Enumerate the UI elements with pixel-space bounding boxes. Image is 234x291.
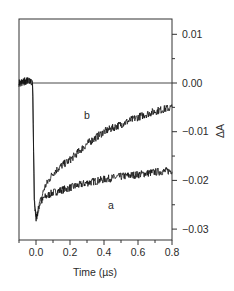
series-group [19, 77, 172, 221]
x-tick-label: 0.8 [165, 246, 180, 258]
series-b-line [19, 78, 172, 218]
x-tick-label: 0.2 [63, 246, 78, 258]
y-tick-label: −0.01 [182, 125, 209, 137]
curve-labels: ba [84, 109, 114, 211]
y-tick-label: 0.01 [182, 28, 203, 40]
series-a-line [19, 77, 172, 221]
y-tick-label: 0.00 [182, 77, 203, 89]
x-tick-label: 0.4 [97, 246, 112, 258]
chart: 0.00.20.40.60.8 0.010.00−0.01−0.02−0.03 … [0, 0, 234, 291]
curve-label-b: b [84, 109, 90, 121]
x-tick-label: 0.0 [29, 246, 44, 258]
y-tick-label: −0.03 [182, 223, 209, 235]
x-tick-label: 0.6 [131, 246, 146, 258]
x-axis-title: Time (µs) [73, 266, 117, 278]
curve-label-a: a [108, 199, 114, 211]
y-axis-title: ΔA [214, 124, 226, 138]
y-axis: 0.010.00−0.01−0.02−0.03 [172, 28, 209, 235]
plot-frame [19, 19, 172, 240]
plot-border [19, 19, 172, 240]
y-tick-label: −0.02 [182, 174, 209, 186]
x-axis: 0.00.20.40.60.8 [19, 240, 179, 258]
